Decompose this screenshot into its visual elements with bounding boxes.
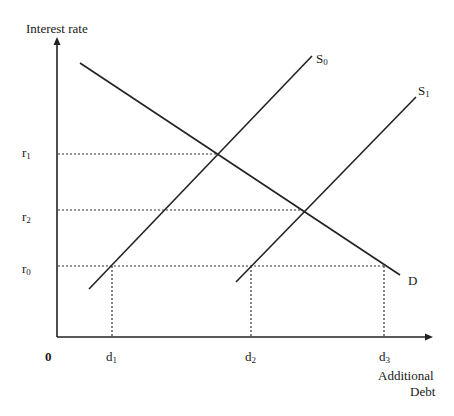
demand-curve-D — [80, 63, 400, 275]
supply-curve-S1 — [236, 97, 416, 282]
label-d1: d1 — [106, 350, 117, 365]
origin-label: 0 — [45, 350, 52, 363]
y-axis-label: Interest rate — [26, 22, 88, 35]
label-S1: S1 — [418, 84, 430, 99]
label-S0: S0 — [316, 52, 328, 67]
label-r1: r1 — [22, 146, 31, 161]
x-axis-arrow-icon — [425, 334, 433, 341]
label-r0: r0 — [22, 262, 31, 277]
x-axis-label-line1: Additional — [378, 369, 434, 382]
label-r2: r2 — [22, 210, 31, 225]
label-d2: d2 — [245, 350, 256, 365]
label-D: D — [408, 274, 417, 287]
y-axis-arrow-icon — [54, 37, 61, 45]
x-axis-label-line2: Debt — [410, 385, 435, 398]
label-d3: d3 — [379, 350, 390, 365]
